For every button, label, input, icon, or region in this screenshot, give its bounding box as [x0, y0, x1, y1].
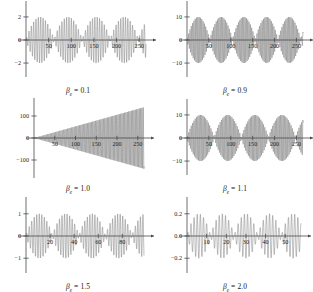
- x-axis-arrow: [310, 38, 313, 41]
- x-tick-label: 150: [248, 140, 257, 147]
- y-tick-label: 0: [26, 134, 29, 141]
- panel-caption: βe = 1.1: [157, 184, 313, 195]
- plot-area: 50100150200250100−10tz: [157, 0, 313, 80]
- x-tick-label: 200: [270, 140, 279, 147]
- panel-caption: βe = 1.5: [0, 282, 156, 292]
- x-tick-label: 50: [282, 238, 288, 245]
- panel-caption: βe = 1.0: [0, 184, 156, 195]
- plot-panel: 10203040500.20.0−0.2tzβe = 2.0: [157, 196, 313, 292]
- beta-value: = 0.9: [229, 86, 247, 95]
- x-tick-label: 250: [292, 42, 301, 49]
- plot-area: 5010015020025020−2tz: [0, 0, 156, 80]
- plot-area: 2040608010−1tz: [0, 196, 156, 276]
- plot-panel: 50100150200250100−10tzβe = 1.1: [157, 98, 313, 195]
- x-tick-label: 150: [92, 140, 101, 147]
- y-tick-label: −10: [172, 157, 182, 164]
- x-tick-label: 200: [270, 42, 279, 49]
- x-tick-label: 100: [67, 42, 76, 49]
- y-tick-label: −0.2: [171, 254, 182, 261]
- y-tick-label: −1: [14, 254, 21, 261]
- plot-area: 501001502002501000−100tz: [0, 98, 156, 178]
- x-tick-label: 50: [206, 140, 212, 147]
- y-tick-label: −100: [16, 156, 29, 163]
- x-tick-label: 150: [248, 42, 257, 49]
- plot-panel: 501001502002501000−100tzβe = 1.0: [0, 98, 156, 195]
- y-tick-label: 100: [20, 112, 29, 119]
- x-axis-arrow: [151, 136, 154, 139]
- y-tick-label: 1: [18, 210, 21, 217]
- x-tick-label: 80: [119, 238, 125, 245]
- panel-caption: βe = 2.0: [157, 282, 313, 292]
- x-tick-label: 250: [133, 140, 142, 147]
- x-tick-label: 50: [206, 42, 212, 49]
- x-tick-label: 40: [263, 238, 269, 245]
- x-tick-label: 50: [52, 140, 58, 147]
- y-tick-label: 2: [18, 13, 21, 20]
- y-tick-label: 0: [179, 134, 182, 141]
- x-tick-label: 60: [95, 238, 101, 245]
- beta-value: = 0.1: [72, 86, 90, 95]
- beta-value: = 1.0: [72, 184, 90, 193]
- x-tick-label: 150: [89, 42, 98, 49]
- x-tick-label: 50: [46, 42, 52, 49]
- x-axis-arrow: [310, 136, 313, 139]
- y-tick-label: 10: [176, 111, 182, 118]
- y-tick-label: 0: [179, 36, 182, 43]
- beta-value: = 1.1: [229, 184, 247, 193]
- x-tick-label: 200: [112, 140, 121, 147]
- y-tick-label: 0: [18, 36, 21, 43]
- x-tick-label: 20: [223, 238, 229, 245]
- plot-panel: 50100150200250100−10tzβe = 0.9: [157, 0, 313, 97]
- y-tick-label: −2: [14, 59, 21, 66]
- panel-caption: βe = 0.9: [157, 86, 313, 97]
- x-axis-arrow: [151, 234, 154, 237]
- plot-area: 50100150200250100−10tz: [157, 98, 313, 178]
- x-tick-label: 250: [292, 140, 301, 147]
- x-tick-label: 100: [226, 140, 235, 147]
- x-axis-arrow: [308, 234, 311, 237]
- beta-value: = 2.0: [229, 282, 247, 291]
- figure-panel-grid: 5010015020025020−2tzβe = 0.1501001502002…: [0, 0, 313, 292]
- x-tick-label: 30: [243, 238, 249, 245]
- x-tick-label: 100: [226, 42, 235, 49]
- plot-panel: 2040608010−1tzβe = 1.5: [0, 196, 156, 292]
- y-tick-label: 0.0: [174, 232, 182, 239]
- y-tick-label: −10: [172, 59, 182, 66]
- beta-value: = 1.5: [72, 282, 90, 291]
- x-tick-label: 250: [135, 42, 144, 49]
- x-tick-label: 100: [71, 140, 80, 147]
- panel-caption: βe = 0.1: [0, 86, 156, 97]
- y-tick-label: 0: [18, 232, 21, 239]
- x-tick-label: 20: [47, 238, 53, 245]
- y-tick-label: 10: [176, 13, 182, 20]
- y-tick-label: 0.2: [174, 210, 182, 217]
- x-tick-label: 40: [71, 238, 77, 245]
- plot-panel: 5010015020025020−2tzβe = 0.1: [0, 0, 156, 97]
- plot-area: 10203040500.20.0−0.2tz: [157, 196, 313, 276]
- x-axis-arrow: [153, 38, 156, 41]
- x-tick-label: 10: [204, 238, 210, 245]
- x-tick-label: 200: [112, 42, 121, 49]
